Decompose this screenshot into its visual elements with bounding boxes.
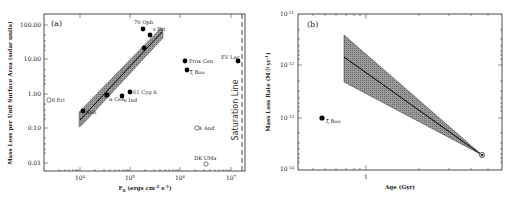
point-prox-cen xyxy=(183,59,188,64)
panel-a-x-tick-label: 106 xyxy=(175,174,186,182)
point-36-oph xyxy=(142,46,147,51)
panel-a-y-ticks xyxy=(44,25,48,163)
label-alpha-cen: α Cen xyxy=(109,96,125,102)
panel-a-x-tick-label: 104 xyxy=(75,174,86,182)
point-70-oph xyxy=(141,27,146,32)
fit-line xyxy=(80,32,162,120)
point-delta-eri xyxy=(47,98,51,102)
panel-b-y-tick-label: 10-14 xyxy=(280,165,295,173)
label-70-oph: 70 Oph xyxy=(134,19,154,26)
panel-a-x-tick-label: 107 xyxy=(226,174,237,182)
panel-a-y-tick-label: 0.10 xyxy=(28,124,42,131)
point-dk-uma xyxy=(204,162,208,166)
label-xi-boo: ξ Boo xyxy=(190,69,205,76)
figure: 100.00 10.00 1.00 0.10 0.01 104 105 106 … xyxy=(0,0,510,197)
age-fit-uncertainty-band xyxy=(344,35,482,155)
panel-b-y-tick-label: 10-13 xyxy=(280,114,295,122)
label-lambda-and: λ And xyxy=(199,125,215,131)
sun-symbol xyxy=(479,152,484,157)
panel-b-y-tick-label: 10-12 xyxy=(280,61,295,69)
panel-a-label: (a) xyxy=(51,19,62,28)
panel-a-open-points xyxy=(47,98,208,166)
panel-b-x-axis-title: Age (Gyr) xyxy=(384,184,415,191)
panel-b: 10-11 10-12 10-13 10-14 1 Age (Gyr) Mass… xyxy=(264,10,502,192)
label-delta-eri: δ Eri xyxy=(52,97,65,103)
panel-a: 100.00 10.00 1.00 0.10 0.01 104 105 106 … xyxy=(7,14,245,193)
label-eps-ind: ε Ind xyxy=(124,97,138,103)
saturation-line-label: Saturation Line xyxy=(231,79,240,140)
panel-a-y-tick-label: 10.00 xyxy=(24,55,41,62)
label-prox-cen: Prox Cen xyxy=(189,58,214,64)
panel-a-x-axis-title: FX (ergs cm-2 s-1) xyxy=(118,184,172,193)
label-xi-boo-b: ξ Boo xyxy=(326,118,341,125)
panel-a-y-tick-label: 100.00 xyxy=(20,21,41,28)
label-sun: Sun xyxy=(86,109,97,115)
panel-a-y-tick-label: 1.00 xyxy=(28,90,42,97)
panel-b-x-tick-label: 1 xyxy=(364,173,368,180)
panel-b-y-axis-title: Mass Loss Rate (M☉ yr-1) xyxy=(264,52,272,132)
point-61-cyg-a xyxy=(128,90,133,95)
panel-a-y-axis-title: Mass Loss per Unit Surface Area (solar u… xyxy=(7,21,14,165)
point-sun xyxy=(81,109,86,114)
panel-a-x-tick-label: 105 xyxy=(125,174,136,182)
age-fit-line xyxy=(344,57,482,155)
label-eps-eri: ε Eri xyxy=(153,26,166,32)
panel-b-y-tick-label: 10-11 xyxy=(280,10,294,18)
label-ev-lac: EV Lac xyxy=(221,54,240,60)
point-xi-boo xyxy=(185,68,190,73)
point-xi-boo-b xyxy=(319,115,324,120)
point-eps-eri xyxy=(148,33,153,38)
label-dk-uma: DK UMa xyxy=(194,155,216,161)
label-61-cyg-a: 61 Cyg A xyxy=(133,89,157,96)
panel-b-label: (b) xyxy=(307,20,318,29)
panel-a-y-tick-label: 0.01 xyxy=(28,159,41,166)
